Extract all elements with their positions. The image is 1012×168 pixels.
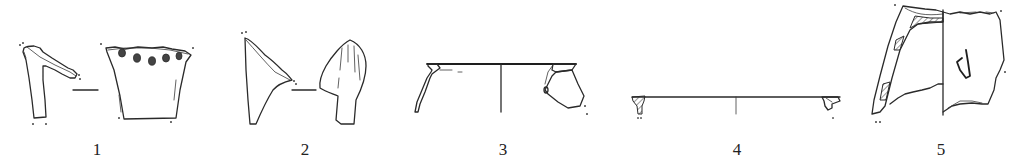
perforation — [149, 57, 156, 65]
applied-lug — [957, 50, 970, 78]
sherd-4-rim-profile-left — [632, 96, 645, 119]
sherd-2-profile — [241, 31, 296, 124]
sherd-3-rim-profile-left — [415, 64, 462, 112]
sherd-4-drawing: 4 — [632, 96, 840, 159]
sherd-3-drawing: 3 — [415, 64, 588, 159]
sherd-5-exterior — [943, 10, 1006, 112]
perforation — [176, 52, 182, 60]
sherd-5-drawing: 5 — [872, 4, 1006, 159]
sherd-5-section — [872, 4, 943, 122]
sherd-1-profile — [19, 42, 80, 124]
sherd-2-drawing: 2 — [241, 31, 366, 159]
sherd-2-number: 2 — [301, 140, 310, 159]
sherd-3-number: 3 — [499, 140, 508, 159]
sherd-4-rim-profile-right — [822, 97, 840, 119]
perforation — [119, 49, 126, 57]
perforation — [163, 54, 170, 62]
perforation — [134, 54, 141, 62]
sherd-1-drawing: 1 — [19, 42, 193, 159]
sherd-3-rim-profile-right — [544, 64, 588, 115]
sherd-1-exterior — [100, 43, 193, 122]
sherd-4-number: 4 — [733, 140, 742, 159]
sherd-figure: 1 2 3 — [0, 0, 1012, 168]
sherd-1-number: 1 — [93, 140, 102, 159]
sherd-2-exterior — [320, 40, 366, 124]
sherd-5-number: 5 — [937, 140, 946, 159]
